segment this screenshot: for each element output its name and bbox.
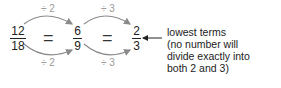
divide-by-2-top: ÷ 2: [41, 3, 55, 14]
note-line: both 2 and 3): [167, 62, 281, 74]
fraction-6-9: 6 9: [73, 25, 82, 52]
equals-sign-1: =: [43, 29, 54, 47]
denominator: 3: [132, 40, 141, 52]
equals-sign-2: =: [102, 29, 113, 47]
fraction-12-18: 12 18: [10, 25, 26, 52]
lowest-terms-note: lowest terms (no number will divide exac…: [167, 26, 281, 74]
divide-by-3-bottom: ÷ 3: [101, 57, 115, 68]
note-line: lowest terms: [167, 26, 281, 38]
numerator: 6: [73, 25, 82, 37]
numerator: 2: [132, 25, 141, 37]
denominator: 9: [73, 40, 82, 52]
note-line: (no number will: [167, 38, 281, 50]
denominator: 18: [10, 40, 26, 52]
top-arrow-2: [84, 16, 130, 24]
numerator: 12: [10, 25, 26, 37]
divide-by-2-bottom: ÷ 2: [41, 57, 55, 68]
fraction-2-3: 2 3: [132, 25, 141, 52]
divide-by-3-top: ÷ 3: [101, 3, 115, 14]
note-line: divide exactly into: [167, 50, 281, 62]
top-arrow-1: [24, 16, 72, 24]
